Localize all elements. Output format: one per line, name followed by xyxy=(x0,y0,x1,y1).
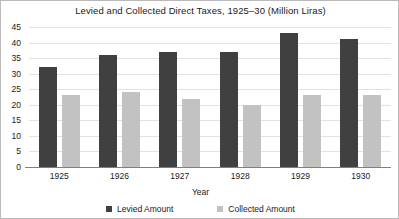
x-tick-label: 1927 xyxy=(170,171,189,181)
bar xyxy=(303,95,321,167)
legend-swatch-icon xyxy=(217,206,223,212)
bar xyxy=(122,92,140,167)
bar xyxy=(340,39,358,167)
bar xyxy=(159,52,177,167)
x-tick-label: 1930 xyxy=(351,171,370,181)
x-tick-label: 1926 xyxy=(110,171,129,181)
y-tick-label: 30 xyxy=(12,69,21,78)
x-tick-label: 1928 xyxy=(231,171,250,181)
legend-swatch-icon xyxy=(106,206,112,212)
chart-title: Levied and Collected Direct Taxes, 1925–… xyxy=(1,5,399,16)
y-axis-tick-labels: 051015202530354045 xyxy=(1,27,25,167)
bar xyxy=(62,95,80,167)
y-tick-label: 40 xyxy=(12,38,21,47)
bar xyxy=(280,33,298,167)
x-tick-label: 1925 xyxy=(50,171,69,181)
legend-entry: Collected Amount xyxy=(217,204,295,214)
bar-chart-figure: Levied and Collected Direct Taxes, 1925–… xyxy=(0,0,399,219)
x-axis-tick-labels: 192519261927192819291930 xyxy=(29,171,391,185)
bar xyxy=(363,95,381,167)
legend-entry: Levied Amount xyxy=(106,204,173,214)
bar-group xyxy=(29,27,89,167)
bar xyxy=(182,99,200,167)
bar-group xyxy=(270,27,330,167)
legend-label: Collected Amount xyxy=(228,204,295,214)
bar xyxy=(99,55,117,167)
y-tick-label: 5 xyxy=(16,147,21,156)
y-tick-label: 25 xyxy=(12,85,21,94)
x-axis-title: Year xyxy=(1,187,399,197)
y-tick-label: 15 xyxy=(12,116,21,125)
y-tick-label: 20 xyxy=(12,101,21,110)
bar xyxy=(39,67,57,167)
x-tick-label: 1929 xyxy=(291,171,310,181)
bar-group xyxy=(210,27,270,167)
bar-group xyxy=(89,27,149,167)
chart-legend: Levied AmountCollected Amount xyxy=(1,204,399,214)
plot-area xyxy=(29,27,391,167)
bar xyxy=(243,105,261,167)
legend-label: Levied Amount xyxy=(117,204,173,214)
bar-group xyxy=(150,27,210,167)
y-tick-label: 10 xyxy=(12,132,21,141)
y-tick-label: 45 xyxy=(12,23,21,32)
x-axis-line xyxy=(25,167,391,168)
bar xyxy=(220,52,238,167)
y-tick-label: 0 xyxy=(16,163,21,172)
bar-group xyxy=(331,27,391,167)
y-tick-label: 35 xyxy=(12,54,21,63)
